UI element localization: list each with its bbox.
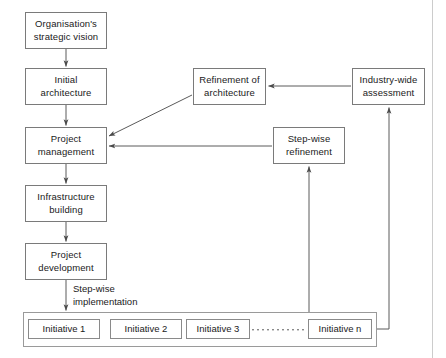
edge-label-step-wise-implementation: Step-wise implementation [73, 283, 137, 308]
node-initial-architecture[interactable]: Initial architecture [25, 68, 107, 105]
edge-refinement-to-management [109, 95, 192, 136]
initiative-box-1[interactable]: Initiative 1 [28, 319, 100, 339]
node-project-management[interactable]: Project management [25, 127, 107, 164]
node-step-wise-refinement[interactable]: Step-wise refinement [273, 127, 345, 164]
diagram-canvas: Organisation's strategic vision Initial … [0, 0, 446, 358]
diagram-connectors [0, 0, 446, 358]
initiative-box-3[interactable]: Initiative 3 [186, 319, 250, 339]
node-industry-wide-assessment[interactable]: Industry-wide assessment [352, 68, 425, 105]
node-project-development[interactable]: Project development [25, 243, 107, 280]
initiatives-ellipsis [252, 325, 306, 335]
initiative-box-2[interactable]: Initiative 2 [110, 319, 182, 339]
node-refinement-of-architecture[interactable]: Refinement of architecture [193, 68, 266, 105]
node-strategic-vision[interactable]: Organisation's strategic vision [25, 12, 107, 49]
edge-initiatives-to-industry [377, 108, 389, 330]
initiative-box-n[interactable]: Initiative n [308, 319, 372, 339]
node-infrastructure-building[interactable]: Infrastructure building [25, 185, 107, 222]
